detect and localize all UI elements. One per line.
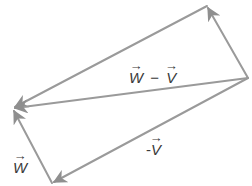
vector-v-symbol: V [151, 142, 161, 157]
vector-w-symbol: W [129, 70, 143, 85]
vector-top-to-left [15, 6, 207, 107]
vector-diagram [0, 0, 252, 186]
label-w-minus-v: W − V [129, 70, 176, 85]
minus-operator: − [150, 69, 159, 86]
vector-right-to-top [208, 8, 248, 78]
label-neg-v: -V [146, 142, 161, 157]
vector-w-symbol: W [13, 160, 27, 175]
label-w: W [13, 160, 27, 175]
vector-v-symbol: V [166, 70, 176, 85]
